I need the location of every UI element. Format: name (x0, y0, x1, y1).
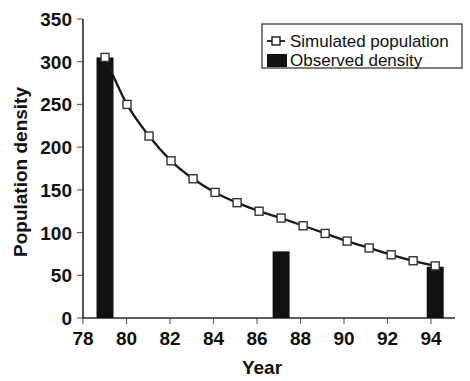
x-tick-label: 88 (290, 328, 311, 349)
x-axis-ticks (83, 318, 431, 324)
data-point-marker (145, 132, 153, 140)
legend-square-marker-icon (272, 37, 280, 45)
data-point-marker (387, 251, 395, 259)
y-tick-label: 250 (40, 94, 72, 115)
y-tick-label: 100 (40, 223, 72, 244)
y-tick-label: 50 (51, 265, 72, 286)
data-point-marker (123, 100, 131, 108)
x-tick-label: 86 (246, 328, 267, 349)
legend-label-observed-density: Observed density (290, 51, 423, 70)
data-point-marker (365, 244, 373, 252)
x-tick-label: 80 (116, 328, 137, 349)
y-axis-title: Population density (10, 87, 31, 257)
population-density-chart: 350 300 250 200 150 100 50 0 78 80 82 84… (0, 0, 470, 381)
data-point-marker (321, 229, 329, 237)
x-tick-label: 90 (333, 328, 354, 349)
data-point-marker (255, 207, 263, 215)
x-axis-title: Year (242, 357, 283, 378)
data-point-marker (233, 199, 241, 207)
observed-density-bar (273, 251, 290, 318)
legend-label-simulated-population: Simulated population (290, 32, 449, 51)
data-point-marker (277, 214, 285, 222)
y-tick-label: 350 (40, 9, 72, 30)
observed-density-bar (427, 267, 444, 318)
y-tick-labels: 350 300 250 200 150 100 50 0 (40, 9, 72, 329)
legend-item-simulated-population: Simulated population (267, 32, 449, 51)
x-tick-label: 94 (420, 328, 442, 349)
x-tick-label: 92 (377, 328, 398, 349)
legend-item-observed-density: Observed density (267, 51, 423, 70)
chart-legend: Simulated population Observed density (262, 24, 462, 70)
data-point-marker (189, 175, 197, 183)
data-point-marker (299, 222, 307, 230)
data-point-marker (409, 257, 417, 265)
data-point-marker (101, 53, 109, 61)
chart-canvas: 350 300 250 200 150 100 50 0 78 80 82 84… (0, 0, 470, 381)
data-point-marker (343, 237, 351, 245)
x-tick-label: 82 (159, 328, 180, 349)
data-point-marker (431, 262, 439, 270)
data-point-marker (211, 188, 219, 196)
x-tick-labels: 78 80 82 84 86 88 90 92 94 (72, 328, 442, 349)
y-axis-ticks (77, 19, 83, 318)
legend-filled-rect-icon (267, 54, 287, 67)
y-tick-label: 0 (61, 308, 72, 329)
y-tick-label: 200 (40, 137, 72, 158)
x-tick-label: 84 (203, 328, 225, 349)
x-tick-label: 78 (72, 328, 93, 349)
y-tick-label: 150 (40, 180, 72, 201)
observed-density-bar (97, 57, 114, 318)
data-point-marker (167, 157, 175, 165)
y-tick-label: 300 (40, 52, 72, 73)
